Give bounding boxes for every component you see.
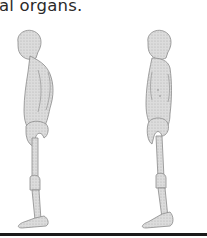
figure-slumped-posture [8, 28, 78, 230]
body-text-fragment: al organs. [0, 0, 82, 16]
figure-upright-posture [130, 28, 200, 230]
horizontal-divider [0, 233, 207, 236]
